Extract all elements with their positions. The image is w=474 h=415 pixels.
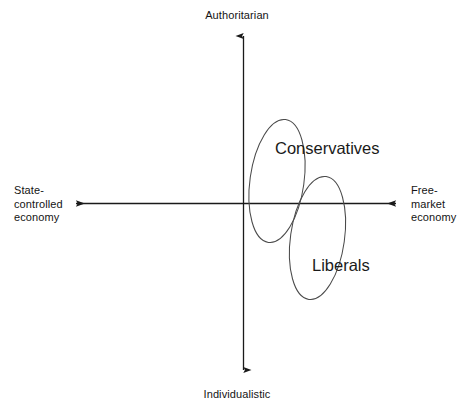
conservatives-ellipse (242, 116, 313, 246)
group-label-liberals: Liberals (312, 256, 370, 274)
group-label-conservatives: Conservatives (275, 139, 380, 157)
political-compass-diagram: Authoritarian Individualistic State- con… (0, 0, 474, 415)
liberals-ellipse (282, 173, 353, 303)
axis-label-authoritarian: Authoritarian (0, 9, 474, 23)
axis-label-free-market-economy: Free- market economy (411, 184, 473, 225)
axis-label-state-controlled-economy: State- controlled economy (14, 184, 74, 225)
axis-label-individualistic: Individualistic (0, 388, 474, 402)
